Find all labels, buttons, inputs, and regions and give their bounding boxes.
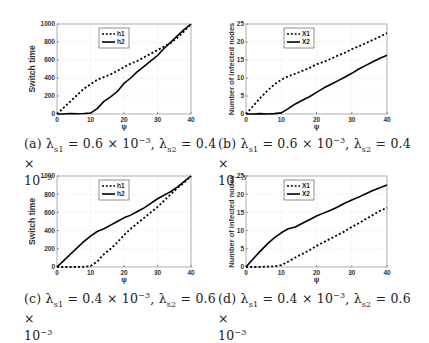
x-tick-label: 0: [244, 116, 248, 123]
caption-sub: s1: [249, 300, 259, 309]
caption-c: (c) λs1 = 0.4 × 10−3, λs2 = 0.6 × 10−3: [24, 289, 229, 343]
caption-sub: s1: [249, 145, 259, 154]
y-axis-label: Number of infected nodes: [227, 23, 236, 116]
y-tick-label: 0: [51, 110, 55, 117]
caption-sub: s1: [54, 300, 64, 309]
y-axis-label: Switch time: [27, 198, 37, 246]
caption-text: = 0.4 × 10: [258, 291, 333, 306]
y-tick-label: 200: [44, 245, 55, 252]
y-tick-label: 0: [240, 263, 244, 270]
legend-label: X2: [302, 190, 310, 197]
x-tick-label: 30: [154, 269, 162, 276]
y-tick-label: 10: [237, 227, 245, 234]
legend-label: h1: [117, 30, 125, 37]
y-tick-label: 0: [51, 263, 55, 270]
caption-sub: s1: [54, 145, 64, 154]
caption-text: = 0.4 × 10: [63, 291, 138, 306]
x-tick-label: 30: [154, 116, 162, 123]
y-tick-label: 600: [44, 56, 55, 63]
caption-text: , λ: [150, 291, 166, 306]
x-axis-label: ψ: [121, 122, 127, 131]
x-tick-label: 10: [87, 269, 95, 276]
y-tick-label: 5: [240, 92, 244, 99]
caption-d: (d) λs1 = 0.4 × 10−3, λs2 = 0.6 × 10−3: [218, 289, 423, 343]
x-axis-label: ψ: [314, 275, 320, 284]
caption-sub: s2: [362, 300, 372, 309]
y-tick-label: 20: [237, 191, 245, 198]
x-tick-label: 10: [87, 116, 95, 123]
caption-text: = 0.6 × 10: [64, 136, 139, 151]
caption-text: (a) λ: [24, 136, 54, 151]
x-axis-label: ψ: [314, 122, 320, 131]
caption-text: , λ: [345, 291, 361, 306]
caption-sup: −3: [139, 136, 151, 145]
caption-text: , λ: [151, 136, 167, 151]
caption-a: (a) λs1 = 0.6 × 10−3, λs2 = 0.4 × 10−3: [24, 134, 229, 188]
legend-label: X1: [302, 30, 310, 37]
y-tick-label: 400: [44, 227, 55, 234]
caption-sup: −3: [333, 291, 345, 300]
caption-sup: −3: [333, 136, 345, 145]
caption-sup: −3: [138, 291, 150, 300]
x-tick-label: 40: [187, 116, 195, 123]
caption-sup: −3: [234, 328, 246, 337]
x-tick-label: 40: [187, 269, 195, 276]
y-tick-label: 20: [237, 38, 245, 45]
caption-text: (b) λ: [218, 136, 249, 151]
caption-sub: s2: [362, 145, 372, 154]
x-tick-label: 30: [348, 116, 356, 123]
x-tick-label: 40: [383, 116, 391, 123]
x-tick-label: 10: [278, 116, 286, 123]
legend-label: h2: [117, 190, 125, 197]
y-tick-label: 5: [240, 245, 244, 252]
caption-sup: −3: [40, 328, 52, 337]
caption-text: 10: [218, 328, 234, 343]
caption-text: 10: [24, 328, 40, 343]
y-tick-label: 200: [44, 92, 55, 99]
x-tick-label: 40: [383, 269, 391, 276]
y-tick-label: 15: [237, 56, 245, 63]
x-tick-label: 30: [348, 269, 356, 276]
y-tick-label: 25: [237, 20, 245, 27]
y-axis-label: Switch time: [27, 45, 37, 93]
x-axis-label: ψ: [121, 275, 127, 284]
x-tick-label: 0: [55, 116, 59, 123]
x-tick-label: 0: [244, 269, 248, 276]
caption-text: (d) λ: [218, 291, 249, 306]
caption-text: 10: [24, 173, 40, 188]
legend-label: X2: [302, 38, 310, 45]
caption-sub: s2: [167, 300, 177, 309]
caption-b: (b) λs1 = 0.6 × 10−3, λs2 = 0.4 × 10−3: [218, 134, 423, 188]
caption-sup: −3: [234, 173, 246, 182]
caption-sup: −3: [40, 173, 52, 182]
y-tick-label: 10: [237, 74, 245, 81]
y-tick-label: 400: [44, 74, 55, 81]
y-axis-label: Number of infected nodes: [227, 175, 236, 268]
caption-sub: s2: [167, 145, 177, 154]
x-tick-label: 10: [278, 269, 286, 276]
y-tick-label: 800: [44, 191, 55, 198]
caption-text: = 0.6 × 10: [258, 136, 333, 151]
y-tick-label: 800: [44, 38, 55, 45]
caption-text: 10: [218, 173, 234, 188]
y-tick-label: 15: [237, 209, 245, 216]
legend: X1X2: [284, 28, 314, 48]
y-tick-label: 600: [44, 209, 55, 216]
y-tick-label: 0: [240, 110, 244, 117]
legend: h1h2: [99, 28, 129, 48]
caption-text: , λ: [345, 136, 361, 151]
y-tick-label: 1000: [41, 20, 56, 27]
caption-text: (c) λ: [24, 291, 54, 306]
legend-label: h2: [117, 38, 125, 45]
x-tick-label: 0: [55, 269, 59, 276]
